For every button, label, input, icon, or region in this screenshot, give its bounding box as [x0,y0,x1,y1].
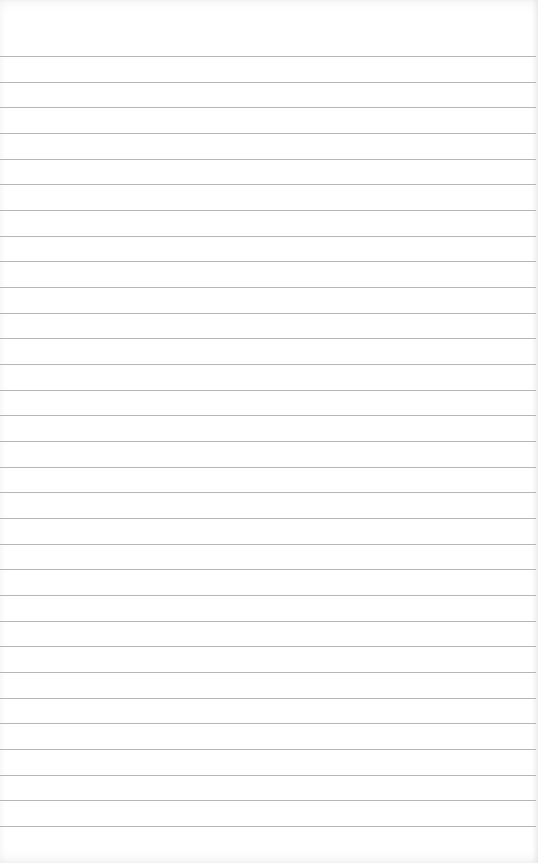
ruled-line [0,133,536,134]
ruled-line [0,544,536,545]
ruled-line [0,672,536,673]
ruled-line [0,338,536,339]
ruled-line [0,159,536,160]
ruled-line [0,698,536,699]
ruled-line [0,313,536,314]
ruled-line [0,723,536,724]
ruled-line [0,415,536,416]
ruled-line [0,518,536,519]
ruled-line [0,569,536,570]
ruled-line [0,364,536,365]
ruled-line [0,467,536,468]
ruled-line [0,595,536,596]
ruled-line [0,261,536,262]
ruled-line [0,621,536,622]
ruled-line [0,390,536,391]
ruled-line [0,107,536,108]
ruled-line [0,800,536,801]
ruled-line [0,56,536,57]
ruled-line [0,492,536,493]
ruled-line [0,82,536,83]
ruled-line [0,210,536,211]
ruled-line [0,441,536,442]
ruled-line [0,749,536,750]
ruled-line [0,184,536,185]
ruled-line [0,775,536,776]
ruled-line [0,287,536,288]
ruled-line [0,826,536,827]
ruled-line [0,236,536,237]
lined-paper-sheet [0,0,538,863]
ruled-line [0,646,536,647]
